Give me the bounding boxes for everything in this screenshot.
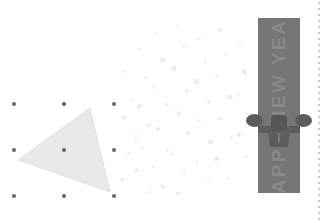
guide-dot — [318, 98, 320, 100]
guide-dot — [318, 122, 320, 124]
handle-top-right[interactable] — [113, 103, 116, 106]
handle-bottom-right[interactable] — [113, 195, 116, 198]
bow-knot-icon — [271, 115, 287, 131]
confetti-piece — [227, 94, 233, 99]
guide-dot — [318, 80, 320, 82]
banner-text: HAPPY NEW YEAR — [268, 18, 290, 193]
guide-dot — [318, 146, 320, 148]
guide-dot — [318, 20, 320, 22]
bow-loop-right-icon — [295, 114, 312, 127]
guide-dot — [318, 158, 320, 160]
guide-dot — [318, 200, 320, 202]
guide-dot — [318, 104, 320, 106]
banner-text-wrap: HAPPY NEW YEAR — [258, 18, 300, 193]
guide-dot — [318, 176, 320, 178]
guide-dot — [318, 62, 320, 64]
slide-canvas[interactable]: HAPPY NEW YEAR — [0, 0, 326, 223]
guide-dot — [318, 74, 320, 76]
guide-dot — [318, 170, 320, 172]
guide-dot — [318, 38, 320, 40]
guide-dot — [318, 92, 320, 94]
guide-dot — [318, 140, 320, 142]
bow-loop-left-icon — [246, 114, 263, 127]
guide-dot — [318, 2, 320, 4]
confetti-piece — [214, 157, 220, 162]
guide-dot — [318, 134, 320, 136]
guide-dot — [318, 32, 320, 34]
guide-dot — [318, 44, 320, 46]
guide-dot — [318, 212, 320, 214]
guide-dot — [318, 110, 320, 112]
guide-dot — [318, 218, 320, 220]
guide-dot — [318, 68, 320, 70]
guide-dot — [318, 50, 320, 52]
gift-banner[interactable]: HAPPY NEW YEAR — [258, 18, 300, 193]
guide-dot — [318, 188, 320, 190]
guide-dot — [318, 8, 320, 10]
guide-dot — [318, 182, 320, 184]
handle-bottom-left[interactable] — [13, 195, 16, 198]
guide-dot — [318, 128, 320, 130]
handle-middle-center[interactable] — [63, 149, 66, 152]
handle-bottom-center[interactable] — [63, 195, 66, 198]
right-margin-guide — [318, 0, 320, 223]
guide-dot — [318, 14, 320, 16]
guide-dot — [318, 86, 320, 88]
guide-dot — [318, 26, 320, 28]
guide-dot — [318, 56, 320, 58]
guide-dot — [318, 206, 320, 208]
guide-dot — [318, 164, 320, 166]
handle-middle-right[interactable] — [113, 149, 116, 152]
guide-dot — [318, 116, 320, 118]
handle-middle-left[interactable] — [13, 149, 16, 152]
handle-top-center[interactable] — [63, 103, 66, 106]
guide-dot — [318, 194, 320, 196]
guide-dot — [318, 152, 320, 154]
handle-top-left[interactable] — [13, 103, 16, 106]
